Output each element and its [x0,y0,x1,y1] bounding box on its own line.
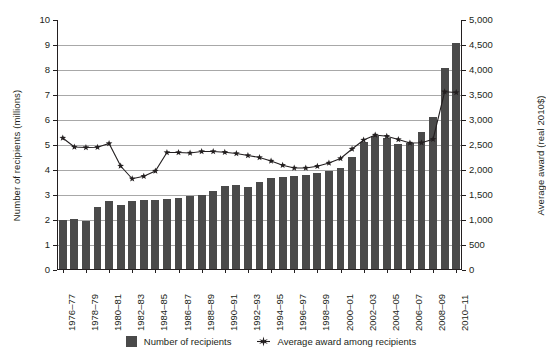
y-axis-right-tick-label: 0 [469,265,474,275]
x-axis-tick [271,269,272,273]
x-axis-tick [132,269,133,273]
line-marker-star-icon [221,149,228,155]
y-axis-right-tick [462,170,466,171]
y-axis-left-tick-label: 7 [45,90,50,100]
y-axis-right-tick [462,95,466,96]
line-marker-star-icon [291,165,298,171]
y-axis-right-tick [462,145,466,146]
line-marker-star-icon [71,144,78,150]
x-axis-tick [155,269,156,273]
x-axis-tick-label: 2008–09 [437,294,447,331]
x-axis-tick-label: 1976–77 [67,294,77,331]
y-axis-left-tick-label: 1 [45,240,50,250]
line-marker-star-icon [210,148,217,154]
x-axis-tick [341,269,342,273]
y-axis-left-tick-label: 8 [45,65,50,75]
y-axis-label-right: Average award (real 2010$) [535,56,546,256]
y-axis-left-tick-label: 3 [45,190,50,200]
x-axis-tick-label: 1978–79 [90,294,100,331]
y-axis-right-tick-label: 4,000 [469,65,493,75]
x-axis-tick-label: 1986–87 [183,294,193,331]
line-marker-star-icon [314,163,321,169]
x-axis-tick-label: 1988–89 [206,294,216,331]
legend-label-recipients: Number of recipients [144,336,232,347]
x-axis-tick-label: 2000–01 [345,294,355,331]
legend-label-average-award: Average award among recipients [277,336,416,347]
x-axis-tick-label: 2004–05 [391,294,401,331]
y-axis-right-tick [462,45,466,46]
x-axis-tick [109,269,110,273]
x-axis-tick-label: 1984–85 [159,294,169,331]
line-series [57,20,462,270]
x-axis-tick [225,269,226,273]
y-axis-right-tick-label: 500 [469,240,485,250]
legend-item-average-award: Average award among recipients [257,336,416,347]
line-marker-star-icon [418,139,425,145]
line-marker-star-icon [233,150,240,156]
line-marker-star-icon [279,162,286,168]
y-axis-right-tick-label: 3,000 [469,115,493,125]
y-axis-right-tick-label: 2,500 [469,140,493,150]
y-axis-left-tick [53,270,57,271]
line-marker-star-icon [175,149,182,155]
x-axis-tick-label: 1994–95 [275,294,285,331]
line-marker-star-icon [198,148,205,154]
x-axis-tick [456,269,457,273]
x-axis-tick-label: 1998–99 [321,294,331,331]
y-axis-right-tick-label: 1,500 [469,190,493,200]
line-marker-star-icon [326,160,333,166]
y-axis-label-left: Number of recipients (millions) [11,56,22,256]
x-axis-tick [179,269,180,273]
x-axis-tick [317,269,318,273]
x-axis-tick-label: 1980–81 [113,294,123,331]
line-marker-star-icon [383,133,390,139]
y-axis-left-tick-label: 6 [45,115,50,125]
x-axis-tick-label: 1990–91 [229,294,239,331]
line-marker-star-icon [302,165,309,171]
line-marker-star-icon [245,152,252,158]
x-axis-tick [86,269,87,273]
x-axis-tick [364,269,365,273]
y-axis-right-tick [462,70,466,71]
y-axis-left-tick-label: 5 [45,140,50,150]
x-axis-tick-label: 1982–83 [136,294,146,331]
line-marker-star-icon [453,89,460,95]
y-axis-right-tick-label: 5,000 [469,15,493,25]
line-marker-star-icon [83,144,90,150]
y-axis-left-tick-label: 4 [45,165,50,175]
line-marker-star-icon [256,154,263,160]
y-axis-left-tick-label: 0 [45,265,50,275]
line-marker-star-icon [372,132,379,138]
line-marker-star-icon [187,150,194,156]
line-marker-star-icon [106,140,113,146]
x-axis-tick-label: 1992–93 [252,294,262,331]
x-axis-tick [63,269,64,273]
y-axis-left-line [57,20,58,270]
x-axis-tick [433,269,434,273]
y-axis-right-tick-label: 3,500 [469,90,493,100]
y-axis-right-tick-label: 2,000 [469,165,493,175]
line-marker-star-icon [430,136,437,142]
line-marker-star-icon [94,144,101,150]
legend-item-recipients: Number of recipients [126,336,232,347]
y-axis-right-tick-label: 1,000 [469,215,493,225]
x-axis-tick-label: 2010–11 [460,295,470,331]
x-axis-tick-label: 1996–97 [298,294,308,331]
legend-star-icon [257,336,270,347]
x-axis-tick-label: 2002–03 [368,294,378,331]
y-axis-right-tick [462,245,466,246]
line-marker-star-icon [164,149,171,155]
chart-legend: Number of recipients Average award among… [0,336,542,347]
y-axis-right-tick [462,120,466,121]
y-axis-right-tick [462,220,466,221]
y-axis-right-tick-label: 4,500 [469,40,493,50]
y-axis-right-line [461,20,462,270]
y-axis-right-tick [462,270,466,271]
plot-area: 012345678910 05001,0001,5002,0002,5003,0… [57,20,462,270]
x-axis-line [57,269,462,270]
x-axis-tick [248,269,249,273]
x-axis-tick [410,269,411,273]
y-axis-right-tick [462,20,466,21]
x-axis-labels: 1976–771978–791980–811982–831984–851986–… [57,273,462,335]
